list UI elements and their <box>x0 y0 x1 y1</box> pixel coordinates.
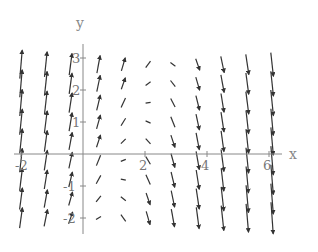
x-tick-label: 6 <box>263 158 271 173</box>
field-arrow <box>196 189 199 209</box>
x-tick-label: -2 <box>15 158 28 173</box>
field-arrow <box>196 77 200 90</box>
field-arrow <box>196 133 199 150</box>
x-axis-label: x <box>289 146 297 162</box>
y-axis-label: y <box>75 15 84 31</box>
field-arrow <box>171 117 175 128</box>
field-arrow <box>97 95 101 110</box>
field-arrow <box>146 193 150 205</box>
y-tick-label: 1 <box>72 115 80 130</box>
field-arrow <box>196 59 200 70</box>
field-arrow <box>121 58 125 71</box>
field-arrow <box>171 209 174 227</box>
field-arrow <box>221 150 224 172</box>
field-arrow <box>171 154 175 168</box>
field-arrow <box>221 75 224 92</box>
field-arrow <box>121 78 125 89</box>
field-arrow <box>171 191 174 207</box>
field-arrow <box>69 133 72 150</box>
vector-arrows <box>20 50 274 234</box>
axes <box>14 44 282 234</box>
field-arrow <box>121 215 126 222</box>
field-arrow <box>96 196 101 202</box>
field-arrow <box>196 170 199 189</box>
field-arrow <box>97 115 101 129</box>
x-tick-label: 4 <box>201 158 209 173</box>
field-arrow <box>44 190 47 208</box>
field-arrow <box>146 82 151 86</box>
field-arrow <box>221 94 224 113</box>
field-arrow <box>146 121 151 123</box>
field-arrow <box>96 216 101 219</box>
field-arrow <box>97 135 101 147</box>
field-arrow <box>171 172 175 187</box>
field-arrow <box>44 210 47 227</box>
y-tick-label: -2 <box>63 211 76 226</box>
field-arrow <box>246 73 249 94</box>
field-arrow <box>121 98 125 108</box>
field-arrow <box>97 56 100 73</box>
field-arrow <box>221 112 224 132</box>
field-arrow <box>146 211 150 224</box>
y-tick-label: 2 <box>72 83 80 98</box>
field-arrow <box>146 139 151 144</box>
field-arrow <box>246 54 249 74</box>
field-arrow <box>196 114 199 130</box>
field-arrow <box>146 102 151 103</box>
field-arrow <box>121 139 126 144</box>
field-arrow <box>44 170 47 189</box>
vector-field-plot: -2246-2-1123 x y <box>0 0 318 252</box>
field-arrow <box>221 131 224 152</box>
field-arrow <box>96 175 101 183</box>
field-arrow <box>44 150 47 170</box>
field-arrow <box>20 188 23 209</box>
field-arrow <box>121 179 126 180</box>
y-tick-label: -1 <box>63 179 76 194</box>
field-arrow <box>20 208 23 228</box>
field-arrow <box>69 192 73 205</box>
field-arrow <box>221 56 224 72</box>
y-tick-label: 3 <box>72 51 80 66</box>
field-arrow <box>196 96 200 110</box>
field-arrow <box>121 159 126 161</box>
field-arrow <box>171 81 176 87</box>
tick-marks: -2246-2-1123 <box>15 51 271 226</box>
field-arrow <box>170 63 175 67</box>
field-arrow <box>146 61 151 67</box>
field-arrow <box>196 207 199 228</box>
x-tick-label: 2 <box>139 158 147 173</box>
field-arrow <box>121 118 126 125</box>
field-arrow <box>96 155 100 165</box>
field-arrow <box>44 131 47 152</box>
field-arrow <box>97 76 100 92</box>
field-arrow <box>146 175 150 185</box>
field-arrow <box>171 135 175 147</box>
field-arrow <box>171 99 175 108</box>
field-arrow <box>121 197 126 201</box>
field-arrow <box>69 152 72 168</box>
